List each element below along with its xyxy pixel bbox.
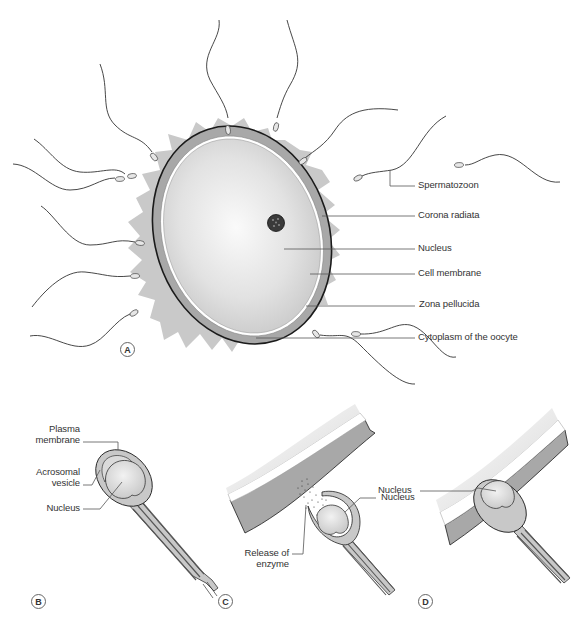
label-acrosomal-vesicle-line2: vesicle [26,478,80,489]
panel-tag-b: B [31,594,46,609]
panel-d [420,408,570,583]
label-zona-pellucida: Zona pellucida [419,299,479,310]
panel-tag-a: A [120,342,135,357]
panel-b-sperm-tail [128,498,218,598]
panel-c-nucleus [317,505,348,534]
label-spermatozoon: Spermatozoon [418,180,479,191]
panel-b [83,438,218,598]
fertilization-diagram [0,0,586,629]
panel-a [13,20,560,384]
label-release-line2: enzyme [236,559,289,570]
oocyte-nucleus [268,215,285,232]
label-nucleus-b: Nucleus [30,503,80,514]
label-nucleus-a: Nucleus [418,243,452,254]
label-acrosomal-vesicle: Acrosomal vesicle [26,467,80,489]
label-cytoplasm: Cytoplasm of the oocyte [418,332,518,343]
label-release-of-enzyme: Release of enzyme [236,548,289,570]
label-cell-membrane: Cell membrane [418,268,481,279]
label-plasma-membrane: Plasma membrane [30,424,80,446]
panel-tag-d: D [418,594,433,609]
panel-b-nucleus [106,460,146,498]
panel-tag-c: C [218,594,233,609]
panel-c-sperm-tail [340,536,395,595]
label-corona-radiata: Corona radiata [418,210,479,221]
label-plasma-membrane-line2: membrane [30,435,80,446]
panel-d-nucleus [481,481,514,509]
label-nucleus-d: Nucleus [378,485,412,496]
panel-d-sperm-tail [514,526,570,583]
